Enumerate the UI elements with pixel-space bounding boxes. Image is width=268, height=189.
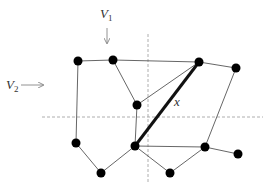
- highlighted-edge-x: [135, 62, 199, 146]
- graph-edge: [205, 68, 236, 147]
- graph-edge: [205, 147, 238, 154]
- v2-label: V2: [6, 77, 18, 94]
- graph-node: [201, 143, 210, 152]
- graph-node: [133, 101, 142, 110]
- graph-edge: [101, 146, 135, 173]
- graph-edge: [135, 105, 137, 146]
- graph-node: [232, 64, 241, 73]
- graph-edge: [199, 62, 236, 68]
- v2-indicator: V2: [6, 77, 43, 94]
- graph-edge: [135, 146, 170, 173]
- separator-lines: [42, 34, 263, 183]
- graph-node: [234, 150, 243, 159]
- graph-node: [72, 139, 81, 148]
- graph-edge: [137, 62, 199, 105]
- graph-edge: [76, 61, 78, 143]
- v1-label: V1: [100, 6, 112, 23]
- graph-edge: [78, 60, 113, 61]
- graph-node: [195, 58, 204, 67]
- graph-edge: [170, 147, 205, 173]
- graph-edge: [76, 143, 101, 173]
- graph-diagram: V1 V2 x: [0, 0, 268, 189]
- graph-node: [166, 169, 175, 178]
- graph-edge: [113, 60, 199, 62]
- graph-edge: [113, 60, 137, 105]
- graph-edge: [135, 146, 205, 147]
- graph-node: [74, 57, 83, 66]
- graph-node: [109, 56, 118, 65]
- edge-x-label: x: [173, 94, 180, 109]
- graph-node: [97, 169, 106, 178]
- graph-node: [131, 142, 140, 151]
- v1-indicator: V1: [100, 6, 112, 43]
- edges: [76, 60, 238, 173]
